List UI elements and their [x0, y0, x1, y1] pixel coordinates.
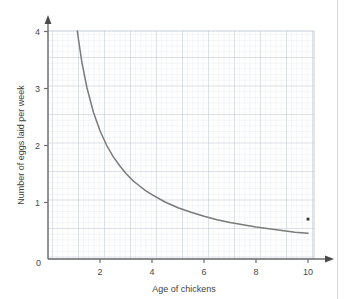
y-axis-title: Number of eggs laid per week [16, 85, 26, 205]
x-tick-label-4: 4 [149, 267, 154, 277]
y-tick-labels: 1 2 3 4 [35, 27, 40, 208]
x-tick-label-10: 10 [303, 267, 313, 277]
origin-label: 0 [36, 258, 41, 268]
plot-grid [48, 31, 314, 259]
x-axis-title: Age of chickens [152, 284, 216, 294]
y-tick-label-1: 1 [35, 198, 40, 208]
y-tick-label-4: 4 [35, 27, 40, 37]
marked-point-layer [307, 218, 310, 221]
data-point-marker [307, 218, 310, 221]
eggs-vs-age-chart: 1 2 3 4 0 2 4 6 8 10 Age of chickens Num… [0, 0, 344, 299]
x-tick-label-2: 2 [97, 267, 102, 277]
chart-page: 1 2 3 4 0 2 4 6 8 10 Age of chickens Num… [0, 0, 344, 299]
x-tick-label-6: 6 [201, 267, 206, 277]
x-tick-labels: 2 4 6 8 10 [97, 267, 313, 277]
y-tick-label-3: 3 [35, 84, 40, 94]
y-tick-label-2: 2 [35, 141, 40, 151]
x-tick-label-8: 8 [253, 267, 258, 277]
